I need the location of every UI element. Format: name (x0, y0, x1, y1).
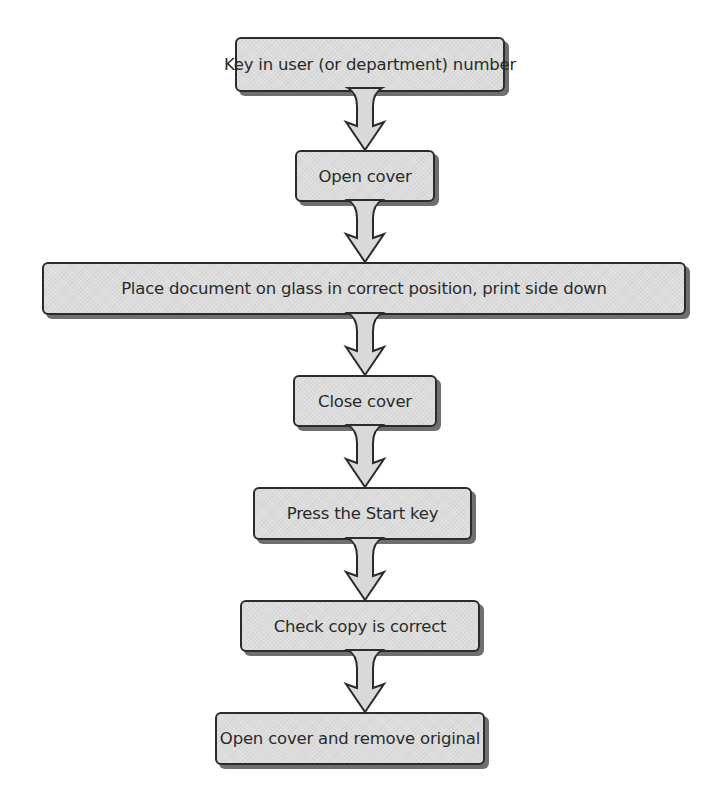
step-close-cover: Close cover (293, 375, 437, 427)
down-arrow-icon (346, 425, 384, 487)
step-open-cover: Open cover (295, 150, 435, 202)
down-arrow-icon (346, 313, 384, 375)
step-place-document: Place document on glass in correct posit… (42, 262, 686, 315)
step-label: Press the Start key (287, 504, 439, 523)
step-label: Key in user (or department) number (224, 55, 516, 74)
step-label: Open cover (318, 167, 411, 186)
down-arrow-icon (346, 650, 384, 712)
step-check-copy: Check copy is correct (240, 600, 480, 652)
down-arrow-icon (346, 88, 384, 150)
step-label: Place document on glass in correct posit… (121, 279, 607, 298)
flowchart-diagram: Key in user (or department) number Open … (0, 0, 724, 806)
down-arrow-icon (346, 200, 384, 262)
step-label: Open cover and remove original (220, 729, 480, 748)
step-label: Close cover (318, 392, 412, 411)
step-key-in-user-number: Key in user (or department) number (235, 37, 505, 92)
step-remove-original: Open cover and remove original (215, 712, 485, 765)
step-label: Check copy is correct (274, 617, 447, 636)
down-arrow-icon (346, 538, 384, 600)
step-press-start-key: Press the Start key (253, 487, 472, 540)
